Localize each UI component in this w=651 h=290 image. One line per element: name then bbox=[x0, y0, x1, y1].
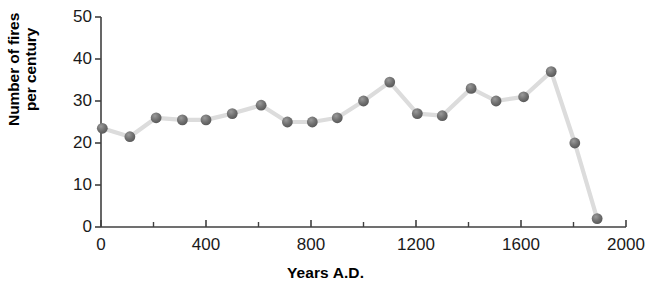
data-point bbox=[491, 96, 502, 107]
y-axis-tick-label: 30 bbox=[40, 91, 92, 111]
data-point bbox=[177, 115, 188, 126]
data-point bbox=[569, 138, 580, 149]
x-axis-tick-label: 800 bbox=[297, 235, 325, 255]
data-point bbox=[412, 108, 423, 119]
fire-frequency-chart: Number of firesper century Years A.D. 01… bbox=[0, 0, 651, 290]
y-axis-tick-label: 50 bbox=[40, 7, 92, 27]
x-axis-tick-label: 1600 bbox=[502, 235, 540, 255]
x-axis-tick-label: 1200 bbox=[397, 235, 435, 255]
data-point bbox=[466, 83, 477, 94]
data-point bbox=[592, 213, 603, 224]
data-point bbox=[201, 115, 212, 126]
data-point bbox=[358, 96, 369, 107]
data-point bbox=[97, 123, 108, 134]
data-point bbox=[384, 77, 395, 88]
x-axis-tick-label: 400 bbox=[192, 235, 220, 255]
data-point bbox=[227, 108, 238, 119]
data-point bbox=[256, 100, 267, 111]
y-axis-tick-label: 0 bbox=[40, 217, 92, 237]
data-point bbox=[518, 91, 529, 102]
y-axis-tick-label: 40 bbox=[40, 49, 92, 69]
data-point bbox=[437, 110, 448, 121]
y-axis-tick-label: 20 bbox=[40, 133, 92, 153]
x-axis-tick-label: 0 bbox=[96, 235, 105, 255]
data-point bbox=[546, 66, 557, 77]
data-point bbox=[124, 131, 135, 142]
y-axis-tick-label: 10 bbox=[40, 175, 92, 195]
data-point bbox=[307, 117, 318, 128]
data-point bbox=[282, 117, 293, 128]
data-point bbox=[151, 112, 162, 123]
data-point bbox=[332, 112, 343, 123]
x-axis-tick-label: 2000 bbox=[607, 235, 645, 255]
